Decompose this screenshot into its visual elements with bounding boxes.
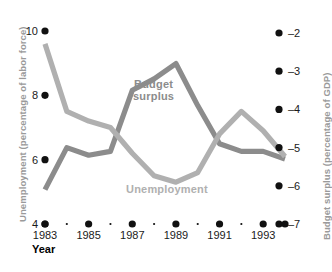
right-tick-label--4: –4 — [288, 103, 300, 115]
right-tick-dot--6 — [275, 182, 282, 189]
right-tick-label--5: –5 — [288, 142, 300, 154]
x-minor-dot-1986 — [109, 223, 111, 225]
right-tick-label--2: –2 — [288, 27, 300, 39]
right-tick-label--3: –3 — [288, 65, 300, 77]
x-tick-label-1983: 1983 — [33, 229, 57, 241]
x-minor-dot-1992 — [240, 223, 242, 225]
x-tick-label-1987: 1987 — [120, 229, 144, 241]
x-tick-label-1985: 1985 — [76, 229, 100, 241]
x-tick-label-1991: 1991 — [207, 229, 231, 241]
right-tick-dot--4 — [275, 106, 282, 113]
left-tick-label-6: 6 — [32, 154, 38, 166]
budget-label-line2: surplus — [133, 90, 174, 102]
y-axis-left-title: Unemployment (percentage of labor force) — [17, 26, 28, 222]
x-minor-dot-1984 — [66, 223, 68, 225]
x-tick-dot-1983 — [41, 220, 48, 227]
x-tick-dot-1991 — [216, 220, 223, 227]
left-tick-label-10: 10 — [26, 25, 38, 37]
left-tick-dot-8 — [41, 92, 48, 99]
x-tick-label-1989: 1989 — [164, 229, 188, 241]
x-axis-title: Year — [32, 243, 55, 255]
right-tick-label--6: –6 — [288, 180, 300, 192]
y-axis-right-title: Budget surplus (percentage of GDP) — [321, 72, 332, 240]
right-axis-tick-dots — [275, 29, 282, 227]
x-minor-dot-1990 — [197, 223, 199, 225]
x-tick-label-1993: 1993 — [251, 229, 275, 241]
budget-surplus-series-label: Budget surplus — [133, 78, 174, 103]
x-tick-dot-1985 — [85, 220, 92, 227]
x-tick-dot-1987 — [129, 220, 136, 227]
x-axis-tick-dots — [41, 220, 288, 227]
left-tick-dot-10 — [41, 27, 48, 34]
right-tick-dot--3 — [275, 68, 282, 75]
right-tick-dot--2 — [275, 29, 282, 36]
budget-label-line1: Budget — [134, 78, 173, 90]
unemployment-line — [45, 44, 285, 182]
right-tick-dot--5 — [275, 144, 282, 151]
right-tick-label--7: –7 — [288, 218, 300, 230]
left-tick-label-8: 8 — [32, 89, 38, 101]
left-tick-dot-6 — [41, 156, 48, 163]
x-minor-dot-1988 — [153, 223, 155, 225]
unemployment-series-label: Unemployment — [126, 183, 208, 195]
x-tick-dot-1993 — [260, 220, 267, 227]
x-tick-dot-1989 — [172, 220, 179, 227]
